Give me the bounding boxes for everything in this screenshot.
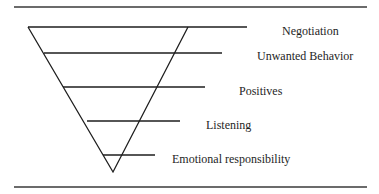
level-label-emotional-responsibility: Emotional responsibility (172, 153, 290, 165)
level-label-listening: Listening (206, 119, 251, 131)
level-label-unwanted-behavior: Unwanted Behavior (257, 50, 353, 62)
level-label-positives: Positives (239, 85, 282, 97)
pyramid-outline (28, 27, 188, 172)
level-label-negotiation: Negotiation (282, 25, 339, 37)
